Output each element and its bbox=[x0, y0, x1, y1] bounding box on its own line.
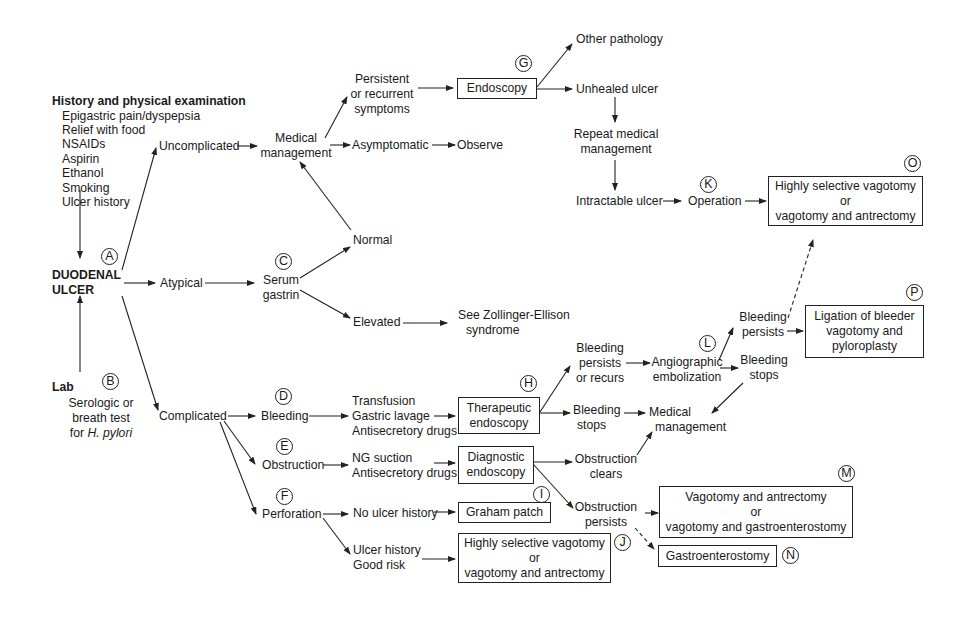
normal-node: Normal bbox=[353, 233, 392, 248]
box-m-vagotomy-antrectomy: Vagotomy and antrectomyorvagotomy and ga… bbox=[659, 486, 853, 538]
medical-management-2-node: Medicalmanagement bbox=[649, 405, 726, 435]
other-pathology-node: Other pathology bbox=[576, 32, 663, 47]
label-i: I bbox=[533, 486, 550, 503]
label-l: L bbox=[699, 335, 716, 352]
obstruction-node: Obstruction bbox=[262, 458, 324, 473]
ulcer-history-good-risk-node: Ulcer historyGood risk bbox=[353, 543, 421, 573]
diagnostic-endoscopy-box: Diagnosticendoscopy bbox=[458, 446, 534, 484]
label-n: N bbox=[782, 547, 799, 564]
obstruction-persists-node: Obstructionpersists bbox=[573, 500, 639, 530]
history-item: Ethanol bbox=[62, 166, 103, 181]
history-item: Relief with food bbox=[62, 123, 145, 138]
no-ulcer-history-node: No ulcer history bbox=[353, 506, 438, 521]
box-n-gastroenterostomy: Gastroenterostomy bbox=[658, 545, 777, 567]
perforation-node: Perforation bbox=[262, 507, 322, 522]
unhealed-ulcer-node: Unhealed ulcer bbox=[576, 82, 658, 97]
history-item: NSAIDs bbox=[62, 137, 105, 152]
history-item: Ulcer history bbox=[62, 195, 130, 210]
persistent-symptoms-node: Persistentor recurrentsymptoms bbox=[342, 72, 422, 117]
asymptomatic-node: Asymptomatic bbox=[352, 138, 429, 153]
label-j: J bbox=[614, 534, 631, 551]
label-o: O bbox=[904, 155, 921, 172]
repeat-medical-node: Repeat medicalmanagement bbox=[573, 127, 659, 157]
label-b: B bbox=[102, 373, 119, 390]
lab-text: Serologic or bbox=[52, 396, 150, 411]
bleeding-stops-node: Bleedingstops bbox=[573, 403, 620, 433]
label-k: K bbox=[700, 176, 717, 193]
serum-gastrin-node: Serumgastrin bbox=[256, 273, 306, 303]
label-d: D bbox=[275, 388, 292, 405]
label-c: C bbox=[275, 253, 292, 270]
duodenal-ulcer-title: ULCER bbox=[52, 283, 94, 298]
box-j-hsv-or-antrectomy: Highly selective vagotomyorvagotomy and … bbox=[458, 533, 611, 583]
duodenal-ulcer-algorithm: History and physical examination Epigast… bbox=[0, 0, 973, 620]
obstruction-clears-node: Obstructionclears bbox=[573, 452, 639, 482]
duodenal-ulcer-title: DUODENAL bbox=[52, 268, 121, 283]
bleeding-persists-recurs-node: Bleedingpersistsor recurs bbox=[570, 341, 630, 386]
history-item: Aspirin bbox=[62, 152, 99, 167]
label-a: A bbox=[101, 248, 118, 265]
bleeding-stops-2-node: Bleedingstops bbox=[736, 353, 792, 383]
label-e: E bbox=[276, 438, 293, 455]
therapeutic-endoscopy-box: Therapeuticendoscopy bbox=[458, 397, 540, 434]
box-p-ligation: Ligation of bleedervagotomy andpyloropla… bbox=[805, 305, 924, 358]
lab-title: Lab bbox=[52, 380, 74, 395]
lab-text: for H. pylori bbox=[52, 426, 150, 441]
history-item: Smoking bbox=[62, 181, 109, 196]
elevated-node: Elevated bbox=[353, 315, 400, 330]
label-p: P bbox=[906, 284, 923, 301]
atypical-node: Atypical bbox=[160, 276, 203, 291]
medical-management-node: Medicalmanagement bbox=[258, 131, 334, 161]
history-title: History and physical examination bbox=[52, 94, 246, 109]
label-m: M bbox=[838, 465, 855, 482]
observe-node: Observe bbox=[457, 138, 503, 153]
bleeding-persists-node: Bleedingpersists bbox=[735, 310, 791, 340]
label-f: F bbox=[276, 488, 293, 505]
operation-node: Operation bbox=[688, 194, 742, 209]
label-h: H bbox=[520, 375, 537, 392]
endoscopy-box: Endoscopy bbox=[457, 78, 537, 99]
label-g: G bbox=[515, 55, 532, 72]
box-o-hsv-or-antrectomy: Highly selective vagotomyorvagotomy and … bbox=[768, 176, 923, 226]
intractable-ulcer-node: Intractable ulcer bbox=[576, 194, 663, 209]
history-item: Epigastric pain/dyspepsia bbox=[62, 109, 200, 124]
obstruction-treatment: NG suctionAntisecretory drugs bbox=[352, 451, 457, 481]
uncomplicated-node: Uncomplicated bbox=[159, 139, 240, 154]
bleeding-node: Bleeding bbox=[261, 409, 308, 424]
bleeding-treatment: TransfusionGastric lavageAntisecretory d… bbox=[352, 394, 457, 439]
angiographic-embolization-node: Angiographicembolization bbox=[648, 355, 726, 385]
lab-text: breath test bbox=[52, 411, 150, 426]
graham-patch-box: Graham patch bbox=[458, 502, 551, 523]
complicated-node: Complicated bbox=[159, 409, 227, 424]
zollinger-ellison-node: See Zollinger-Ellisonsyndrome bbox=[458, 308, 570, 338]
